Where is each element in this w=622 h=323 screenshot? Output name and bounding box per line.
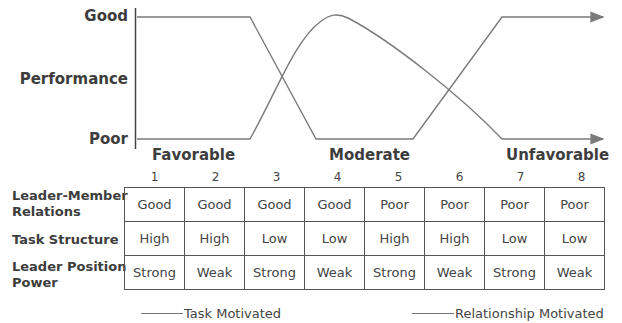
table-cell: Good — [185, 188, 245, 222]
table-cell: High — [365, 222, 425, 256]
column-number: 4 — [307, 170, 368, 184]
row-label-leader-position-power: Leader Position Power — [12, 259, 126, 291]
table-cell: Strong — [485, 256, 545, 290]
legend-label: Relationship Motivated — [455, 306, 604, 321]
situation-table: Good Good Good Good Poor Poor Poor Poor … — [124, 187, 605, 290]
legend-line-swatch — [412, 313, 454, 314]
table-cell: Strong — [365, 256, 425, 290]
x-category-favorable: Favorable — [152, 146, 235, 164]
table-row-leader-member-relations: Good Good Good Good Poor Poor Poor Poor — [125, 188, 605, 222]
table-row-task-structure: High High Low Low High High Low Low — [125, 222, 605, 256]
column-number: 6 — [429, 170, 490, 184]
column-number: 1 — [124, 170, 185, 184]
table-cell: Low — [305, 222, 365, 256]
table-row-leader-position-power: Strong Weak Strong Weak Strong Weak Stro… — [125, 256, 605, 290]
table-cell: Strong — [125, 256, 185, 290]
table-cell: Weak — [545, 256, 605, 290]
column-number: 7 — [490, 170, 551, 184]
legend-label: Task Motivated — [184, 306, 281, 321]
x-category-moderate: Moderate — [329, 146, 410, 164]
row-label-task-structure: Task Structure — [12, 232, 119, 248]
table-cell: High — [425, 222, 485, 256]
table-cell: Poor — [485, 188, 545, 222]
task-motivated-line — [137, 17, 603, 139]
table-cell: Poor — [545, 188, 605, 222]
x-category-unfavorable: Unfavorable — [506, 146, 609, 164]
table-cell: Weak — [425, 256, 485, 290]
relationship-motivated-line — [137, 15, 603, 139]
legend-item-task-motivated: Task Motivated — [141, 306, 281, 321]
table-cell: High — [185, 222, 245, 256]
column-number: 8 — [551, 170, 612, 184]
table-cell: Good — [125, 188, 185, 222]
legend-item-relationship-motivated: Relationship Motivated — [412, 306, 604, 321]
performance-chart — [0, 0, 622, 170]
table-cell: Low — [545, 222, 605, 256]
table-cell: High — [125, 222, 185, 256]
table-cell: Poor — [425, 188, 485, 222]
table-cell: Strong — [245, 256, 305, 290]
table-cell: Good — [305, 188, 365, 222]
column-number: 2 — [185, 170, 246, 184]
column-number: 5 — [368, 170, 429, 184]
table-cell: Low — [485, 222, 545, 256]
legend-line-swatch — [141, 313, 183, 314]
table-cell: Good — [245, 188, 305, 222]
column-number: 3 — [246, 170, 307, 184]
table-cell: Low — [245, 222, 305, 256]
table-cell: Weak — [305, 256, 365, 290]
row-label-leader-member-relations: Leader-Member Relations — [12, 188, 128, 220]
table-cell: Weak — [185, 256, 245, 290]
table-cell: Poor — [365, 188, 425, 222]
